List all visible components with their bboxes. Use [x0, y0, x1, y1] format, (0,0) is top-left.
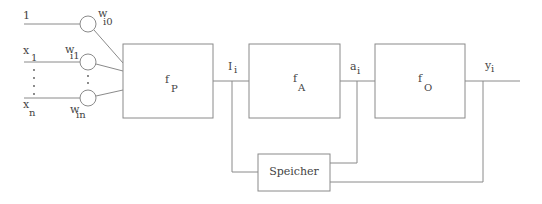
- weight-node-w-i1: [80, 54, 96, 70]
- signal-label-ai-sub: i: [357, 65, 360, 76]
- block-fO-sub: O: [424, 82, 432, 93]
- weight-label-in-sub: in: [76, 109, 86, 120]
- ellipsis-dot: [33, 85, 35, 87]
- weight-node-w-i0: [80, 16, 96, 32]
- weight-edge-i0: [94, 30, 123, 63]
- ellipsis-dot: [87, 75, 89, 77]
- weight-edge-i1: [96, 64, 123, 71]
- signal-label-Ii-main: I: [228, 60, 232, 73]
- memory-label: Speicher: [269, 165, 319, 178]
- weight-node-w-in: [80, 90, 96, 106]
- block-fP-sub: P: [171, 83, 178, 94]
- weight-label-i0-sub: i0: [103, 16, 113, 27]
- input-label-bias: 1: [23, 9, 30, 22]
- signal-label-yi-sub: i: [491, 63, 494, 74]
- input-label-x1-main: x: [23, 44, 30, 57]
- signal-label-ai-main: a: [350, 60, 357, 73]
- ellipsis-dot: [33, 69, 35, 71]
- input-label-xn-sub: n: [29, 107, 36, 118]
- signal-label-Ii-sub: i: [234, 64, 237, 75]
- weight-edge-in: [96, 90, 123, 96]
- ellipsis-dot: [33, 77, 35, 79]
- neuron-model-diagram: 1 x 1 x n w i0 w i1 w in f P f A f O I i…: [0, 0, 542, 204]
- block-fA-sub: A: [297, 82, 306, 93]
- input-label-x1-sub: 1: [31, 52, 37, 63]
- weight-label-i1-sub: i1: [70, 50, 80, 61]
- ellipsis-dot: [33, 93, 35, 95]
- ellipsis-dot: [87, 82, 89, 84]
